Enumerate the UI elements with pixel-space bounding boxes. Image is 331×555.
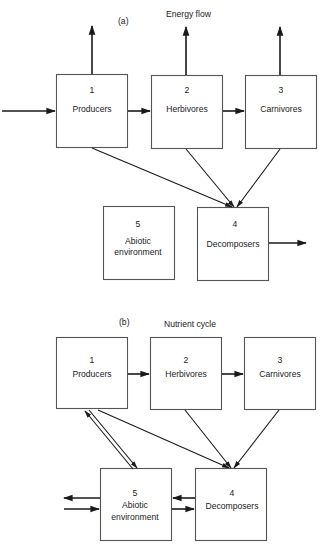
box-decomposers-number: 4: [233, 219, 238, 229]
box-producers-name: Producers: [72, 104, 111, 114]
box-abiotic-name-line1: Abiotic: [122, 500, 148, 510]
box-decomposers-name: Decomposers: [206, 239, 259, 249]
arrow-producers-to-decomposers: [92, 148, 232, 207]
box-abiotic-environment: 5 Abiotic environment: [101, 469, 172, 541]
box-decomposers-name: Decomposers: [205, 501, 258, 511]
box-producers: 1 Producers: [57, 338, 128, 409]
panel-b-nutrient-cycle: (b) Nutrient cycle 1 Producers 2 Herbivo…: [57, 317, 316, 541]
ecosystem-diagram: (a) Energy flow 1 Producers 2 Herbivores…: [0, 0, 331, 555]
box-decomposers-number: 4: [230, 488, 235, 498]
box-carnivores-number: 3: [279, 85, 284, 95]
arrow-producers-to-decomposers: [98, 410, 229, 468]
panel-b-title: Nutrient cycle: [164, 319, 216, 329]
box-herbivores: 2 Herbivores: [152, 76, 223, 149]
box-herbivores: 2 Herbivores: [151, 338, 222, 410]
box-abiotic-environment: 5 Abiotic environment: [104, 207, 175, 280]
box-producers-number: 1: [90, 85, 95, 95]
arrow-abiotic-to-producers: [85, 411, 133, 469]
box-producers-number: 1: [90, 355, 95, 365]
arrow-producers-to-abiotic: [89, 410, 137, 468]
box-carnivores: 3 Carnivores: [246, 76, 317, 149]
box-carnivores-name: Carnivores: [260, 104, 302, 114]
box-producers: 1 Producers: [57, 75, 128, 148]
box-abiotic-name-line1: Abiotic: [125, 236, 151, 246]
arrow-carnivores-to-decomposers: [234, 410, 279, 468]
panel-a-title: Energy flow: [166, 9, 212, 19]
box-herbivores-name: Herbivores: [165, 369, 207, 379]
box-abiotic-number: 5: [133, 488, 138, 498]
box-carnivores: 3 Carnivores: [245, 338, 316, 410]
box-carnivores-number: 3: [278, 355, 283, 365]
box-herbivores-number: 2: [185, 85, 190, 95]
panel-b-label: (b): [119, 317, 130, 327]
box-decomposers: 4 Decomposers: [198, 208, 269, 281]
panel-a-energy-flow: (a) Energy flow 1 Producers 2 Herbivores…: [2, 9, 317, 281]
box-herbivores-name: Herbivores: [166, 104, 208, 114]
box-decomposers: 4 Decomposers: [196, 469, 267, 541]
arrow-carnivores-to-decomposers: [237, 149, 280, 207]
box-abiotic-number: 5: [136, 219, 141, 229]
box-abiotic-name-line2: environment: [111, 512, 159, 522]
box-abiotic-name-line2: environment: [114, 247, 162, 257]
box-herbivores-number: 2: [184, 355, 189, 365]
panel-a-label: (a): [118, 16, 129, 26]
box-producers-name: Producers: [72, 369, 111, 379]
box-carnivores-name: Carnivores: [259, 369, 301, 379]
